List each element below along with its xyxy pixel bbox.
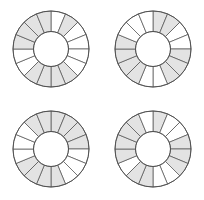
donut-top-left-svg: [0, 0, 102, 100]
donut-bottom-left-inner-circle: [34, 132, 69, 167]
donut-top-right-svg: [102, 0, 204, 100]
donut-bottom-right-svg: [102, 100, 204, 200]
donut-top-left-inner-circle: [34, 32, 69, 67]
donut-bottom-right: [102, 100, 204, 200]
donut-top-right: [102, 0, 204, 100]
figure-canvas: [0, 0, 204, 200]
donut-bottom-right-inner-circle: [136, 132, 171, 167]
donut-top-left: [0, 0, 102, 100]
donut-top-right-inner-circle: [136, 32, 171, 67]
donut-bottom-left-svg: [0, 100, 102, 200]
donut-bottom-left: [0, 100, 102, 200]
